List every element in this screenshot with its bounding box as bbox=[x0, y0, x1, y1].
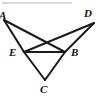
segment-EC bbox=[24, 52, 45, 80]
segment-DE bbox=[24, 23, 94, 52]
segment-group bbox=[4, 20, 94, 80]
vertex-label-D: D bbox=[84, 8, 92, 19]
vertex-label-A: A bbox=[0, 10, 6, 21]
vertex-label-E: E bbox=[9, 47, 16, 58]
segment-BC bbox=[45, 52, 65, 80]
vertex-label-C: C bbox=[40, 84, 47, 95]
vertex-label-B: B bbox=[71, 47, 78, 58]
geometry-figure: A D E B C bbox=[0, 0, 102, 100]
segment-DB bbox=[65, 23, 94, 52]
